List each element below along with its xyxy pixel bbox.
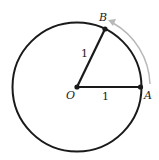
label-B: B [98,11,107,24]
rotation-arrowhead-icon [108,19,116,26]
label-O: O [66,89,75,102]
label-A: A [143,89,152,102]
point-A [138,84,143,89]
point-O [74,84,79,89]
unit-circle-diagram: O A B 1 1 [0,0,159,160]
label-OA-length: 1 [102,90,109,103]
label-OB-length: 1 [81,47,88,60]
point-B [102,26,107,31]
